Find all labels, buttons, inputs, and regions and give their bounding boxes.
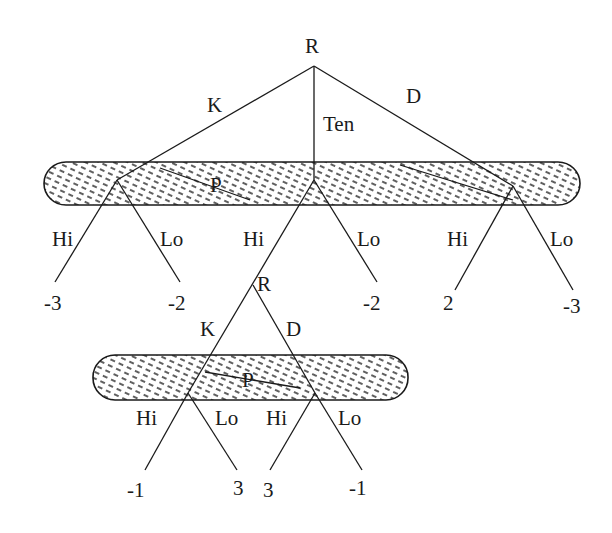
upper-left-lo-label: Lo [160, 227, 183, 251]
upper-right-lo-label: Lo [550, 227, 573, 251]
game-tree-diagram: R K Ten D P Hi Lo Hi Lo Hi Lo -3 -2 -2 2… [0, 0, 612, 533]
payoff-left-hi: -3 [44, 291, 62, 315]
payoff-left-lo: -2 [168, 291, 186, 315]
upper-mid-lo-label: Lo [357, 227, 380, 251]
subroot-label: R [257, 272, 271, 296]
edge-lower-left-lo [188, 393, 237, 470]
payoff-mid-lo: -2 [363, 291, 381, 315]
move-d-label: D [406, 84, 421, 108]
lower-right-hi-label: Hi [266, 406, 287, 430]
move-ten-label: Ten [323, 112, 355, 136]
payoff-lower-right-hi: 3 [263, 478, 274, 502]
root-label: R [305, 34, 319, 58]
lower-left-hi-label: Hi [136, 406, 157, 430]
payoff-lower-left-lo: 3 [233, 476, 244, 500]
upper-left-hi-label: Hi [52, 227, 73, 251]
lower-info-set-label: P [242, 368, 254, 392]
payoff-lower-left-hi: -1 [127, 478, 145, 502]
sub-move-d-label: D [286, 317, 301, 341]
edge-lower-right-lo [315, 393, 362, 470]
payoff-right-hi: 2 [443, 291, 454, 315]
move-k-label: K [207, 93, 222, 117]
edge-lower-right-hi [270, 393, 315, 470]
upper-mid-hi-label: Hi [243, 227, 264, 251]
edge-lower-left-hi [145, 393, 188, 470]
payoff-lower-right-lo: -1 [349, 476, 367, 500]
sub-move-k-label: K [200, 317, 215, 341]
lower-left-lo-label: Lo [215, 406, 238, 430]
upper-right-hi-label: Hi [447, 227, 468, 251]
lower-right-lo-label: Lo [338, 406, 361, 430]
payoff-right-lo: -3 [563, 294, 581, 318]
upper-info-set-label: P [210, 173, 222, 197]
